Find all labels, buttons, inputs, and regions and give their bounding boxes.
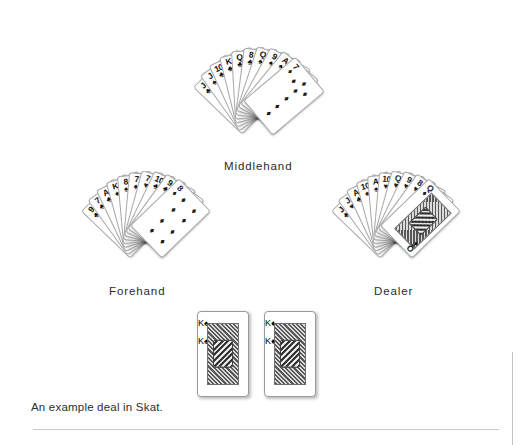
card-pip-icon: ♦ xyxy=(281,94,291,103)
hand-label-middlehand: Middlehand xyxy=(224,160,292,172)
card-pip-icon: ♦ xyxy=(289,76,299,85)
figure-canvas: J♣♣J♠♠10♣♣♣♣♣♣♣♣♣♣♣K♣♣Q♣♣8♣♣♣♣♣♣♣♣♣Q♠♠9♠… xyxy=(0,0,532,445)
card-pip-icon: ♦ xyxy=(179,195,189,205)
card-pip-icon: ♦ xyxy=(157,237,167,247)
card-pip-icon: ♦ xyxy=(147,226,157,236)
vertical-divider xyxy=(512,352,513,445)
card-pip-icon: ♦ xyxy=(299,79,309,88)
card-pip-icon: ♦ xyxy=(179,216,189,226)
card-pip-icon: ♦ xyxy=(189,206,199,216)
card-pip-icon: ♦ xyxy=(264,109,274,118)
horizontal-divider xyxy=(33,429,499,430)
card-pip-icon: ♦ xyxy=(272,102,282,111)
card-pip-icon: ♦ xyxy=(300,90,310,99)
skat-card-2[interactable]: K♦K♦ xyxy=(264,311,316,397)
card-pip-icon: ♦ xyxy=(168,205,178,215)
card-pip-icon: ♦ xyxy=(157,216,167,226)
figure-caption: An example deal in Skat. xyxy=(31,401,163,413)
hand-label-forehand: Forehand xyxy=(109,285,165,297)
card-pip-icon: ♦ xyxy=(290,87,300,96)
court-card-artwork xyxy=(274,323,306,385)
card-pip-icon: ♦ xyxy=(168,227,178,237)
skat-card-1[interactable]: K♠K♠ xyxy=(197,311,249,397)
hand-label-dealer: Dealer xyxy=(374,285,413,297)
court-card-artwork xyxy=(207,323,239,385)
